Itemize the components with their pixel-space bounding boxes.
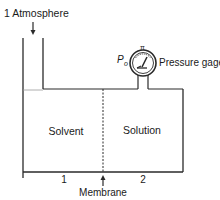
- pressure-gauge-icon: [130, 50, 156, 76]
- compartment-1-number: 1: [61, 174, 67, 185]
- gauge-stem: [138, 75, 148, 89]
- pressure-subscript: o: [124, 60, 128, 67]
- solution-label: Solution: [123, 124, 161, 136]
- atmosphere-label: 1 Atmosphere: [4, 7, 69, 19]
- pressure-symbol: P: [117, 54, 124, 65]
- open-tube: [23, 38, 43, 178]
- compartment-2-number: 2: [140, 174, 146, 185]
- up-arrow-icon: [101, 175, 106, 186]
- solvent-label: Solvent: [48, 125, 83, 137]
- pressure-gage-label: Pressure gage: [159, 57, 220, 68]
- gauge-pi-mark: π: [140, 44, 145, 51]
- membrane-label: Membrane: [79, 187, 127, 198]
- down-arrow-icon: [31, 22, 36, 35]
- osmosis-diagram: 1 Atmosphere π P o Pressure gage: [0, 0, 220, 200]
